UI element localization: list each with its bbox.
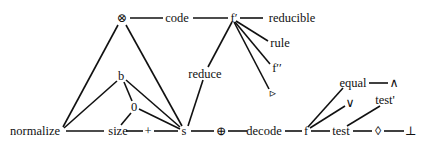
node-reduce: reduce <box>188 67 222 81</box>
node-otimes: ⊗ <box>117 11 127 25</box>
node-code: code <box>165 11 189 25</box>
edges-layer <box>63 18 404 131</box>
node-size: size <box>108 124 128 138</box>
edge-reduce-s <box>188 80 203 126</box>
node-fprime: f′ <box>231 11 238 25</box>
node-testprime: test' <box>375 93 395 107</box>
edge-otimes-normalize <box>63 25 118 127</box>
node-vee: ∨ <box>345 96 354 110</box>
node-plus: + <box>144 124 151 138</box>
nodes-layer: ⊗codef′reduciblerulef′′▹reduceb0normaliz… <box>10 11 417 138</box>
node-test: test <box>332 124 350 138</box>
node-diamond: ◊ <box>375 124 382 138</box>
edge-fprime-rule <box>236 21 268 41</box>
node-reducible: reducible <box>269 11 316 25</box>
graph-diagram: ⊗codef′reduciblerulef′′▹reduceb0normaliz… <box>0 0 429 144</box>
edge-f-equal <box>308 88 343 127</box>
node-bottom: ⊥ <box>405 124 417 138</box>
node-b: b <box>118 69 124 83</box>
node-equal: equal <box>339 76 367 90</box>
node-oplus: ⊕ <box>216 124 226 138</box>
node-fdouble: f′′ <box>272 61 282 75</box>
edge-fprime-reduce <box>208 22 232 67</box>
node-normalize: normalize <box>10 124 60 138</box>
node-decode: decode <box>246 124 282 138</box>
node-s: s <box>182 124 187 138</box>
node-rule: rule <box>270 36 290 50</box>
node-wedge: ∧ <box>389 76 398 90</box>
diagram-canvas: ⊗codef′reduciblerulef′′▹reduceb0normaliz… <box>0 0 429 144</box>
node-triangle: ▹ <box>270 86 277 100</box>
node-zero: 0 <box>131 100 137 114</box>
edge-b-normalize <box>64 81 117 128</box>
